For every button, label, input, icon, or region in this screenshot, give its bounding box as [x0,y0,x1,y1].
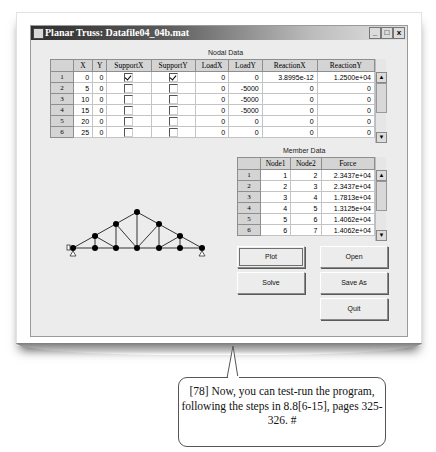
cell-reactionx[interactable]: 3.8995e-12 [262,72,317,83]
cell-force[interactable]: 1.4062e+04 [321,225,375,236]
title-bar[interactable]: Planar Truss: Datafile04_04b.mat _ □ x [31,26,407,40]
cell-force[interactable]: 1.4062e+04 [321,214,375,225]
cell-force[interactable]: 2.3437e+04 [321,181,375,192]
cell-reactiony[interactable]: 0 [317,83,374,94]
cell-x[interactable]: 20 [74,116,93,127]
row-header[interactable]: 1 [238,170,261,181]
cell-y[interactable]: 0 [93,116,107,127]
scroll-down-button[interactable]: ▼ [376,230,387,241]
column-header-loady[interactable]: LoadY [229,60,262,72]
row-header[interactable]: 2 [238,181,261,192]
supportx-checkbox[interactable] [124,128,133,137]
supporty-checkbox[interactable] [169,95,178,104]
cell-y[interactable]: 0 [93,94,107,105]
cell-reactionx[interactable]: 0 [262,83,317,94]
cell-loadx[interactable]: 0 [195,72,228,83]
cell-reactiony[interactable]: 0 [317,105,374,116]
cell-x[interactable]: 0 [74,72,93,83]
cell-reactionx[interactable]: 0 [262,116,317,127]
maximize-button[interactable]: □ [381,27,393,39]
member-table-scrollbar[interactable]: ▲ ▼ [375,157,386,241]
cell-node2[interactable]: 5 [291,203,321,214]
scroll-up-button[interactable]: ▲ [376,170,387,181]
cell-reactiony[interactable]: 1.2500e+04 [317,72,374,83]
cell-loadx[interactable]: 0 [195,127,228,138]
cell-node2[interactable]: 4 [291,192,321,203]
supporty-checkbox[interactable] [169,106,178,115]
supporty-checkbox[interactable] [169,117,178,126]
supporty-checkbox[interactable] [169,73,178,82]
cell-x[interactable]: 5 [74,83,93,94]
cell-loadx[interactable]: 0 [195,94,228,105]
row-header[interactable]: 2 [51,83,74,94]
row-header[interactable]: 5 [51,116,74,127]
column-header-force[interactable]: Force [321,158,375,170]
cell-loadx[interactable]: 0 [195,83,228,94]
row-header[interactable]: 3 [238,192,261,203]
scroll-down-button[interactable]: ▼ [376,132,387,143]
cell-node1[interactable]: 2 [261,181,291,192]
cell-x[interactable]: 10 [74,94,93,105]
member-data-table[interactable]: Node1 Node2 Force 1 1 2 2.3437e+04 2 2 3… [237,157,375,236]
cell-y[interactable]: 0 [93,72,107,83]
cell-y[interactable]: 0 [93,83,107,94]
cell-node2[interactable]: 3 [291,181,321,192]
scroll-thumb[interactable] [376,181,387,211]
row-header[interactable]: 4 [238,203,261,214]
cell-reactiony[interactable]: 0 [317,94,374,105]
supportx-checkbox[interactable] [124,95,133,104]
cell-x[interactable]: 15 [74,105,93,116]
cell-node1[interactable]: 4 [261,203,291,214]
column-header-loadx[interactable]: LoadX [195,60,228,72]
cell-y[interactable]: 0 [93,105,107,116]
nodal-table-scrollbar[interactable]: ▲ ▼ [375,59,386,143]
cell-y[interactable]: 0 [93,127,107,138]
cell-reactionx[interactable]: 0 [262,105,317,116]
cell-force[interactable]: 1.3125e+04 [321,203,375,214]
plot-button[interactable]: Plot [237,246,305,268]
cell-node1[interactable]: 6 [261,225,291,236]
cell-node1[interactable]: 5 [261,214,291,225]
cell-loady[interactable]: -5000 [229,94,262,105]
quit-button[interactable]: Quit [320,298,388,320]
cell-loadx[interactable]: 0 [195,105,228,116]
cell-force[interactable]: 2.3437e+04 [321,170,375,181]
cell-force[interactable]: 1.7813e+04 [321,192,375,203]
cell-loady[interactable]: -5000 [229,83,262,94]
close-button[interactable]: x [393,27,405,39]
cell-node2[interactable]: 7 [291,225,321,236]
supportx-checkbox[interactable] [124,84,133,93]
cell-loady[interactable]: -5000 [229,105,262,116]
cell-loady[interactable]: 0 [229,72,262,83]
cell-loady[interactable]: 0 [229,116,262,127]
minimize-button[interactable]: _ [369,27,381,39]
cell-reactionx[interactable]: 0 [262,94,317,105]
column-header-supportx[interactable]: SupportX [107,60,151,72]
column-header-x[interactable]: X [74,60,93,72]
row-header[interactable]: 4 [51,105,74,116]
row-header[interactable]: 3 [51,94,74,105]
cell-loady[interactable]: 0 [229,127,262,138]
supporty-checkbox[interactable] [169,128,178,137]
cell-loadx[interactable]: 0 [195,116,228,127]
column-header-reactiony[interactable]: ReactionY [317,60,374,72]
cell-node2[interactable]: 2 [291,170,321,181]
cell-reactiony[interactable]: 0 [317,116,374,127]
cell-node1[interactable]: 3 [261,192,291,203]
scroll-thumb[interactable] [376,83,387,113]
save-as-button[interactable]: Save As [320,272,388,294]
supportx-checkbox[interactable] [124,73,133,82]
supportx-checkbox[interactable] [124,117,133,126]
row-header[interactable]: 5 [238,214,261,225]
supporty-checkbox[interactable] [169,84,178,93]
column-header-node1[interactable]: Node1 [261,158,291,170]
column-header-node2[interactable]: Node2 [291,158,321,170]
open-button[interactable]: Open [320,246,388,268]
cell-node1[interactable]: 1 [261,170,291,181]
column-header-reactionx[interactable]: ReactionX [262,60,317,72]
cell-node2[interactable]: 6 [291,214,321,225]
cell-reactiony[interactable]: 0 [317,127,374,138]
row-header[interactable]: 1 [51,72,74,83]
cell-x[interactable]: 25 [74,127,93,138]
cell-reactionx[interactable]: 0 [262,127,317,138]
